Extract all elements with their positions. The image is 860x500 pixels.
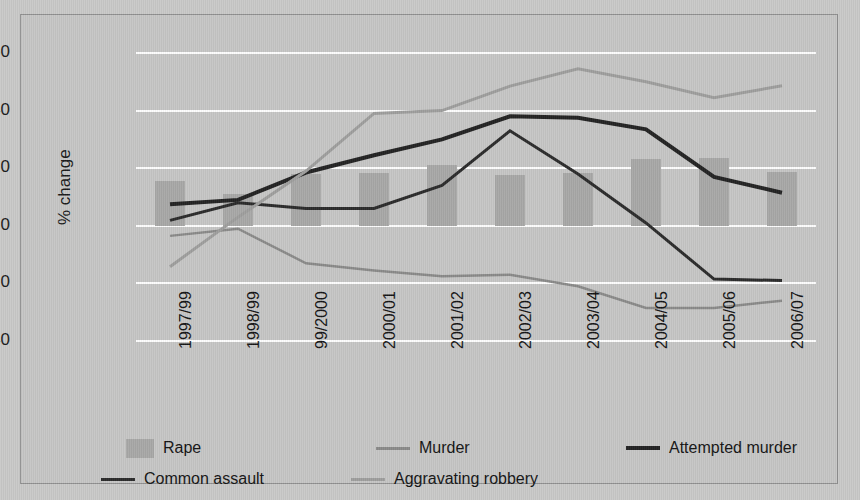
x-axis-tick-label: 2003/04 (585, 291, 603, 349)
legend-item: Aggravating robbery (351, 466, 538, 492)
legend-item: Attempted murder (626, 435, 797, 461)
x-axis-tick-label: 99/2000 (313, 291, 331, 349)
legend-row-2: Common assaultAggravating robbery (126, 466, 846, 492)
x-axis-tick-label: 2000/01 (381, 291, 399, 349)
x-axis-tick-label: 1998/99 (245, 291, 263, 349)
legend-swatch-line-icon (376, 447, 410, 450)
chart-frame: % change 6040200–20–40 1997/991998/9999/… (20, 14, 838, 484)
x-axis-tick-label: 2006/07 (789, 291, 807, 349)
legend-label: Attempted murder (669, 435, 797, 461)
chart-legend: RapeMurderAttempted murder Common assaul… (126, 435, 846, 497)
y-axis-label: % change (55, 149, 75, 225)
plot-area: 6040200–20–40 1997/991998/9999/20002000/… (136, 53, 816, 341)
legend-label: Murder (419, 435, 470, 461)
line-series-group (136, 53, 816, 341)
line-series (170, 69, 782, 267)
x-axis-tick-label: 1997/99 (177, 291, 195, 349)
legend-swatch-line-icon (626, 446, 660, 450)
y-axis-tick-label: 60 (0, 42, 10, 62)
y-axis-tick-label: –40 (0, 330, 10, 350)
legend-swatch-line-icon (351, 478, 385, 481)
legend-label: Rape (163, 435, 201, 461)
legend-swatch-line-icon (101, 478, 135, 481)
legend-label: Aggravating robbery (394, 466, 538, 492)
legend-label: Common assault (144, 466, 264, 492)
x-axis-tick-label: 2004/05 (653, 291, 671, 349)
chart-figure: % change 6040200–20–40 1997/991998/9999/… (0, 0, 860, 500)
y-axis-tick-label: 20 (0, 157, 10, 177)
legend-swatch-box-icon (126, 439, 154, 458)
line-series (170, 116, 782, 204)
line-series (170, 131, 782, 281)
legend-item: Murder (376, 435, 470, 461)
y-axis-tick-label: 0 (0, 215, 10, 235)
x-axis-tick-label: 2005/06 (721, 291, 739, 349)
legend-item: Rape (126, 435, 201, 461)
legend-row-1: RapeMurderAttempted murder (126, 435, 846, 461)
y-axis-tick-label: –20 (0, 272, 10, 292)
x-axis-tick-label: 2002/03 (517, 291, 535, 349)
y-axis-tick-label: 40 (0, 100, 10, 120)
x-axis-tick-label: 2001/02 (449, 291, 467, 349)
legend-item: Common assault (101, 466, 264, 492)
